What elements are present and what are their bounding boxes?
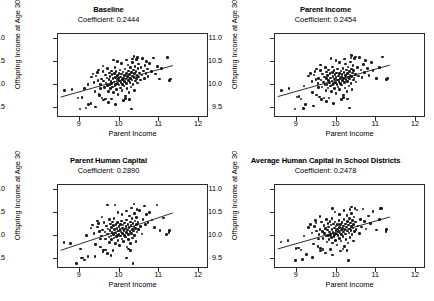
panel-baseline: Baseline Coefficient: 0.2444 Offspring I…	[0, 0, 217, 151]
panel-coefficient: Coefficient: 0.2454	[217, 15, 434, 24]
y-tick-label: 10.5	[196, 208, 222, 215]
x-tick-mark	[198, 117, 199, 121]
x-axis-label: Parent Income	[274, 129, 425, 138]
y-tick-label: 9.5	[0, 103, 5, 110]
x-tick-mark	[415, 268, 416, 272]
panel-coefficient: Coefficient: 0.2444	[0, 15, 217, 24]
y-axis-label: Offspring Income at Age 30	[230, 0, 239, 93]
x-axis-label: Parent Income	[274, 280, 425, 289]
y-tick-label: 10.5	[0, 208, 5, 215]
x-tick-mark	[336, 117, 337, 121]
panel-parent-income: Parent Income Coefficient: 0.2454 Offspr…	[217, 0, 434, 151]
x-tick-mark	[336, 268, 337, 272]
x-tick-label: 12	[405, 271, 425, 279]
x-tick-mark	[79, 117, 80, 121]
scatter-plot-grid: Baseline Coefficient: 0.2444 Offspring I…	[0, 0, 434, 301]
x-tick-mark	[79, 268, 80, 272]
y-tick-label: 10.0	[196, 231, 222, 238]
y-tick-label: 10.0	[0, 231, 5, 238]
x-tick-mark	[375, 117, 376, 121]
y-axis-label: Offspring Income at Age 30	[230, 148, 239, 244]
plot-area	[274, 184, 425, 268]
x-tick-mark	[158, 268, 159, 272]
regression-line	[275, 185, 424, 268]
x-tick-label: 11	[148, 271, 168, 279]
x-tick-mark	[296, 117, 297, 121]
x-tick-label: 10	[326, 120, 346, 128]
y-tick-label: 9.5	[196, 103, 222, 110]
panel-coefficient: Coefficient: 0.2478	[217, 166, 434, 175]
x-tick-mark	[375, 268, 376, 272]
x-tick-label: 11	[365, 120, 385, 128]
panel-coefficient: Coefficient: 0.2890	[0, 166, 217, 175]
x-tick-mark	[415, 117, 416, 121]
x-axis-label: Parent Income	[57, 129, 208, 138]
x-tick-mark	[119, 117, 120, 121]
x-tick-mark	[119, 268, 120, 272]
x-tick-label: 10	[109, 120, 129, 128]
y-tick-label: 11.0	[0, 34, 5, 41]
x-tick-label: 9	[286, 120, 306, 128]
plot-area	[57, 33, 208, 117]
panel-average-human-capital-school-districts: Average Human Capital in School District…	[217, 151, 434, 301]
y-tick-label: 10.0	[196, 80, 222, 87]
panel-parent-human-capital: Parent Human Capital Coefficient: 0.2890…	[0, 151, 217, 301]
y-tick-label: 10.0	[0, 80, 5, 87]
x-tick-mark	[158, 117, 159, 121]
panel-title: Baseline	[0, 5, 217, 14]
x-tick-label: 12	[188, 271, 208, 279]
panel-title: Parent Human Capital	[0, 156, 217, 165]
regression-line	[58, 34, 207, 117]
y-tick-label: 11.0	[0, 185, 5, 192]
x-tick-label: 10	[326, 271, 346, 279]
x-tick-mark	[198, 268, 199, 272]
x-tick-label: 9	[69, 271, 89, 279]
x-tick-label: 12	[188, 120, 208, 128]
plot-area	[274, 33, 425, 117]
x-tick-mark	[296, 268, 297, 272]
x-tick-label: 11	[365, 271, 385, 279]
regression-line	[275, 34, 424, 117]
x-axis-label: Parent Income	[57, 280, 208, 289]
x-tick-label: 10	[109, 271, 129, 279]
regression-line	[58, 185, 207, 268]
panel-title: Parent Income	[217, 5, 434, 14]
y-tick-label: 10.5	[0, 57, 5, 64]
x-tick-label: 11	[148, 120, 168, 128]
x-tick-label: 9	[286, 271, 306, 279]
y-axis-label: Offspring Income at Age 30	[13, 148, 22, 244]
y-axis-label: Offspring Income at Age 30	[13, 0, 22, 93]
y-tick-label: 11.0	[196, 185, 222, 192]
y-tick-label: 9.5	[196, 254, 222, 261]
panel-title: Average Human Capital in School District…	[217, 156, 434, 165]
y-tick-label: 10.5	[196, 57, 222, 64]
y-tick-label: 11.0	[196, 34, 222, 41]
plot-area	[57, 184, 208, 268]
x-tick-label: 9	[69, 120, 89, 128]
x-tick-label: 12	[405, 120, 425, 128]
y-tick-label: 9.5	[0, 254, 5, 261]
